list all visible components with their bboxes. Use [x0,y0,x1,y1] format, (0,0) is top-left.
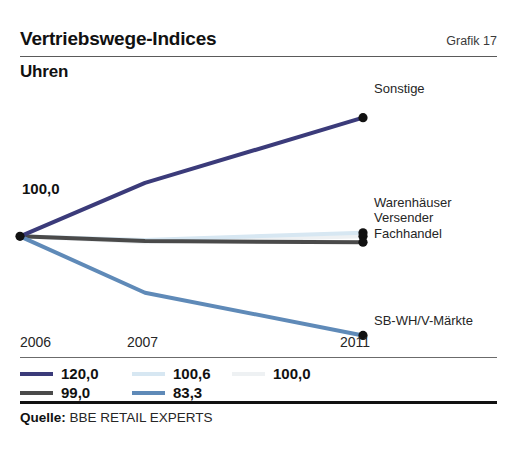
legend-swatch-icon-0 [20,372,53,376]
legend-row-top: 120,0 100,6 100,0 [20,364,497,383]
series-line-sb-wh-v-m-rkte [20,236,363,335]
series-label-sonstige: Sonstige [374,81,425,96]
legend-swatch-icon-1 [132,372,165,376]
legend-label-2: 100,0 [273,365,311,382]
legend-item-0: 120,0 [20,365,132,382]
source-label: Quelle: [20,410,66,425]
legend-swatch-icon-2 [232,372,265,376]
x-axis-tick-2011: 2011 [340,334,370,350]
origin-value-label: 100,0 [22,180,60,197]
source-divider [20,401,497,404]
endpoint-marker [358,113,367,122]
series-label-sbwh: SB-WH/V-Märkte [374,313,473,328]
legend-swatch-icon-3 [20,391,53,395]
x-axis-tick-2006: 2006 [20,334,51,350]
legend-item-4: 83,3 [132,384,232,401]
legend-label-4: 83,3 [173,384,202,401]
legend-label-3: 99,0 [61,384,90,401]
series-label-warenhaeuser: Warenhäuser [374,195,452,210]
series-label-group: Warenhäuser Versender Fachhandel [374,195,452,241]
legend-item-1: 100,6 [132,365,232,382]
legend-item-3: 99,0 [20,384,132,401]
legend-label-1: 100,6 [173,365,211,382]
chart-legend: 120,0 100,6 100,0 99,0 83,3 [20,364,497,402]
legend-label-0: 120,0 [61,365,99,382]
origin-point-marker [15,232,24,241]
x-axis-line [20,357,497,358]
series-label-versender: Versender [374,210,452,225]
x-axis-tick-2007: 2007 [127,334,158,350]
legend-item-2: 100,0 [232,365,332,382]
source-text: BBE RETAIL EXPERTS [70,410,213,425]
chart-page: Vertriebswege-Indices Grafik 17 Uhren 10… [0,0,517,450]
series-label-fachhandel: Fachhandel [374,226,452,241]
endpoint-marker [358,238,367,247]
legend-swatch-icon-4 [132,391,165,395]
legend-row-bottom: 99,0 83,3 [20,383,497,402]
series-line-sonstige [20,118,363,237]
source-line: Quelle: BBE RETAIL EXPERTS [20,410,213,425]
